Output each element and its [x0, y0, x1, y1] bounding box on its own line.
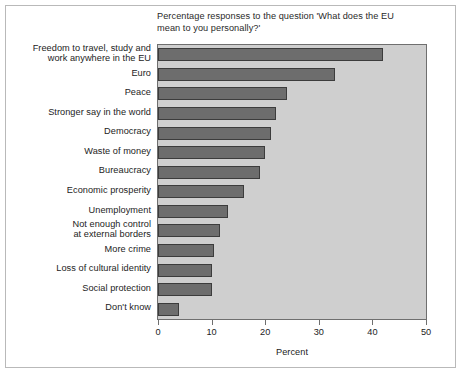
bar-row: [158, 68, 426, 81]
bar[interactable]: [158, 127, 271, 140]
bar-row: [158, 185, 426, 198]
bar[interactable]: [158, 283, 212, 296]
bar-chart-figure: Percentage responses to the question 'Wh…: [0, 0, 463, 375]
bar-row: [158, 48, 426, 61]
category-label: Freedom to travel, study and work anywhe…: [9, 43, 157, 64]
bar[interactable]: [158, 87, 287, 100]
x-tick-label: 40: [367, 327, 377, 337]
category-label: Unemployment: [9, 205, 157, 216]
x-axis-title: Percent: [157, 347, 427, 357]
x-tick-mark: [265, 320, 266, 325]
bar-row: [158, 87, 426, 100]
x-tick-label: 10: [206, 327, 216, 337]
bar-row: [158, 166, 426, 179]
x-tick-mark: [158, 320, 159, 325]
x-tick-label: 20: [260, 327, 270, 337]
bar[interactable]: [158, 264, 212, 277]
bar[interactable]: [158, 185, 244, 198]
bars-layer: [158, 45, 426, 319]
category-label: Don't know: [9, 302, 157, 313]
x-tick-label: 0: [155, 327, 160, 337]
bar[interactable]: [158, 205, 228, 218]
bar-row: [158, 224, 426, 237]
bar[interactable]: [158, 48, 383, 61]
category-label: Stronger say in the world: [9, 107, 157, 118]
bar-row: [158, 264, 426, 277]
bar-row: [158, 244, 426, 257]
x-tick-mark: [426, 320, 427, 325]
x-tick-mark: [319, 320, 320, 325]
bar-row: [158, 205, 426, 218]
category-label: Economic prosperity: [9, 185, 157, 196]
bar[interactable]: [158, 224, 220, 237]
bar[interactable]: [158, 146, 265, 159]
category-label: Peace: [9, 87, 157, 98]
category-label: Loss of cultural identity: [9, 263, 157, 274]
bar-row: [158, 303, 426, 316]
bar[interactable]: [158, 244, 214, 257]
category-label: Democracy: [9, 126, 157, 137]
bar[interactable]: [158, 303, 179, 316]
bar-row: [158, 146, 426, 159]
x-axis: 01020304050: [157, 320, 427, 321]
bar[interactable]: [158, 107, 276, 120]
x-tick-label: 50: [421, 327, 431, 337]
x-tick-mark: [212, 320, 213, 325]
category-label: Not enough control at external borders: [9, 219, 157, 240]
plot-panel: [157, 44, 427, 320]
chart-title: Percentage responses to the question 'Wh…: [157, 10, 429, 34]
category-label: Bureaucracy: [9, 165, 157, 176]
category-label: Social protection: [9, 283, 157, 294]
category-label: More crime: [9, 244, 157, 255]
bar[interactable]: [158, 166, 260, 179]
bar[interactable]: [158, 68, 335, 81]
x-tick-label: 30: [314, 327, 324, 337]
bar-row: [158, 127, 426, 140]
category-label: Euro: [9, 68, 157, 79]
x-tick-mark: [372, 320, 373, 325]
bar-row: [158, 107, 426, 120]
category-label: Waste of money: [9, 146, 157, 157]
category-labels: Freedom to travel, study and work anywhe…: [0, 44, 157, 320]
bar-row: [158, 283, 426, 296]
